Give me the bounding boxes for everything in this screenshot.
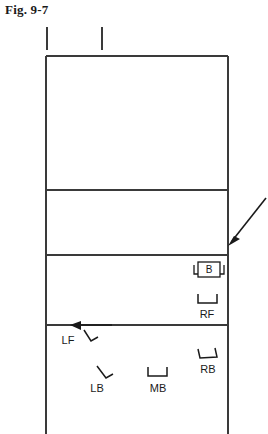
left-front-movement-arrow [70, 321, 112, 330]
left-front-player: LF [62, 330, 98, 346]
middle-back-player-label: MB [150, 382, 167, 394]
court-diagram: B RF LF LB MB [0, 0, 268, 434]
left-back-player: LB [90, 366, 113, 394]
setter-box-label: B [206, 264, 213, 275]
net-tick-marks [47, 27, 102, 50]
court-outline [46, 56, 228, 434]
left-back-player-label: LB [90, 382, 103, 394]
left-front-player-label: LF [62, 334, 75, 346]
right-back-player: RB [198, 348, 217, 375]
figure-container: Fig. 9-7 B [0, 0, 268, 434]
incoming-ball-arrow [228, 198, 266, 246]
setter-position-box: B [194, 262, 224, 277]
right-back-player-label: RB [200, 363, 215, 375]
right-front-player-label: RF [200, 308, 215, 320]
middle-back-player: MB [148, 367, 167, 394]
court-division-lines [46, 190, 228, 325]
right-front-player: RF [198, 294, 217, 320]
